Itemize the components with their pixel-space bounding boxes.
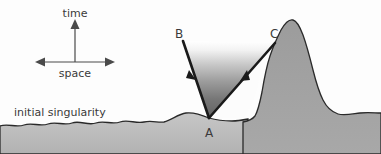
point-label-b: B: [175, 27, 183, 41]
diagram-canvas: time space initial singularity B C A: [0, 0, 381, 154]
point-label-a: A: [205, 126, 214, 140]
time-axis-label: time: [63, 7, 88, 20]
point-label-c: C: [270, 27, 278, 41]
spacetime-diagram: time space initial singularity B C A: [0, 0, 381, 154]
space-axis-label: space: [59, 67, 92, 80]
initial-singularity-label: initial singularity: [14, 106, 106, 119]
